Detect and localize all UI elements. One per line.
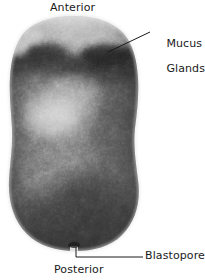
label-mucus-glands-line1: Mucus	[166, 37, 202, 50]
label-blastopore: Blastopore	[145, 250, 205, 263]
embryo-figure: Anterior Mucus Glands Blastopore Posteri…	[0, 0, 205, 280]
label-anterior: Anterior	[50, 2, 95, 15]
label-mucus-glands-line2: Glands	[166, 62, 205, 75]
label-posterior: Posterior	[54, 264, 104, 277]
mucus-glands-leader-line	[108, 32, 150, 52]
blastopore-leader-line	[76, 247, 143, 257]
label-mucus-glands: Mucus Glands	[152, 25, 205, 88]
